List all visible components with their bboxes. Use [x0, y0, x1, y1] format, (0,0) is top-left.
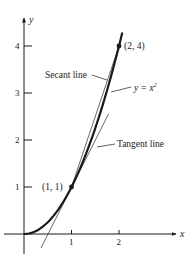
secant-tangent-diagram: x y 1 2 1 2 3 4 (1, 1) (2, 4) Secant lin… [0, 0, 191, 267]
secant-leader [92, 75, 107, 80]
point-1-1 [69, 185, 74, 190]
curve-label: y = x2 [133, 81, 158, 93]
x-axis-label: x [179, 228, 185, 239]
y-tick-4: 4 [15, 41, 20, 51]
point-1-1-label: (1, 1) [42, 182, 63, 193]
y-axis-label: y [28, 14, 34, 25]
point-2-4-label: (2, 4) [124, 41, 145, 52]
curve-leader [111, 87, 131, 92]
point-2-4 [117, 44, 122, 49]
parabola-curve [24, 33, 122, 234]
y-tick-2: 2 [15, 135, 20, 145]
x-tick-2: 2 [117, 237, 122, 247]
tangent-leader [97, 144, 115, 147]
y-tick-1: 1 [15, 182, 20, 192]
secant-line [72, 46, 120, 187]
y-tick-3: 3 [15, 88, 20, 98]
tangent-line-label: Tangent line [117, 139, 164, 149]
x-ticks: 1 2 [69, 230, 121, 247]
x-tick-1: 1 [69, 237, 74, 247]
secant-line-label: Secant line [45, 70, 87, 80]
